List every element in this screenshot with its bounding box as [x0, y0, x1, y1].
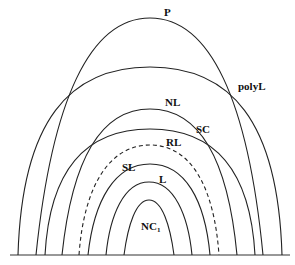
label-NC1: NC1: [141, 220, 161, 234]
label-polyL: polyL: [238, 80, 266, 92]
label-P: P: [164, 6, 171, 18]
label-NC1-subscript: 1: [157, 226, 161, 234]
label-L: L: [159, 173, 166, 185]
curve-SC: [45, 129, 255, 255]
label-SC: SC: [196, 123, 210, 135]
label-NL: NL: [165, 96, 180, 108]
curve-SL: [88, 164, 210, 255]
complexity-class-diagram: P polyL NL SC RL SL L NC1: [0, 0, 295, 265]
label-SL: SL: [122, 161, 135, 173]
label-RL: RL: [166, 136, 181, 148]
curve-L: [106, 182, 192, 255]
label-NC1-main: NC: [141, 220, 157, 232]
